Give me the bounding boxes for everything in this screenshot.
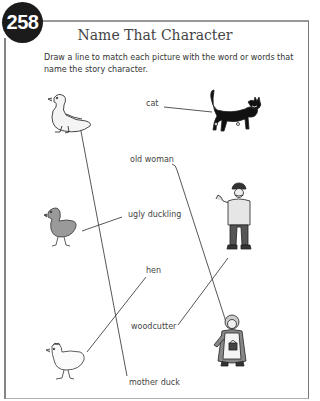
woodcutter-picture[interactable]	[216, 183, 251, 249]
old-woman-picture[interactable]	[214, 315, 246, 366]
ugly-duckling-picture[interactable]	[44, 208, 76, 246]
hen-picture[interactable]	[46, 343, 84, 379]
match-lines	[80, 107, 228, 376]
mother-duck-picture[interactable]	[48, 94, 91, 133]
cat-picture[interactable]	[211, 90, 261, 131]
